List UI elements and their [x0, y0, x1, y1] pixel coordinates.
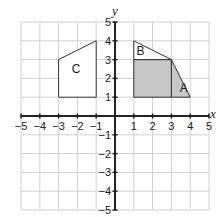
x-tick-label: 4 [187, 120, 193, 132]
axes [21, 22, 209, 210]
shaded-square [134, 60, 172, 98]
y-tick-label: 4 [105, 35, 111, 47]
y-tick-label: 5 [105, 16, 111, 28]
y-tick-label: −4 [98, 185, 111, 197]
y-axis-title: y [110, 3, 118, 18]
x-axis-title: x [209, 106, 216, 121]
x-tick-label: −5 [15, 120, 28, 132]
x-tick-label: 2 [150, 120, 156, 132]
y-tick-label: −2 [98, 148, 111, 160]
y-tick-label: 3 [105, 54, 111, 66]
x-tick-label: 5 [206, 120, 212, 132]
shape-label-c: C [72, 62, 81, 76]
y-tick-label: −3 [98, 166, 111, 178]
coordinate-grid: ABC −5−4−3−2−11234554321−1−2−3−4−5 x y [0, 0, 221, 217]
x-tick-label: −2 [71, 120, 84, 132]
x-tick-label: −4 [34, 120, 47, 132]
x-tick-label: 1 [131, 120, 137, 132]
y-tick-label: 2 [105, 72, 111, 84]
x-tick-label: −3 [52, 120, 65, 132]
shape-label-a: A [180, 81, 188, 95]
y-tick-label: −1 [98, 129, 111, 141]
y-tick-label: −5 [98, 204, 111, 216]
x-tick-label: 3 [168, 120, 174, 132]
y-tick-label: 1 [105, 91, 111, 103]
shape-label-b: B [137, 44, 145, 58]
shapes-layer: ABC [59, 41, 191, 97]
